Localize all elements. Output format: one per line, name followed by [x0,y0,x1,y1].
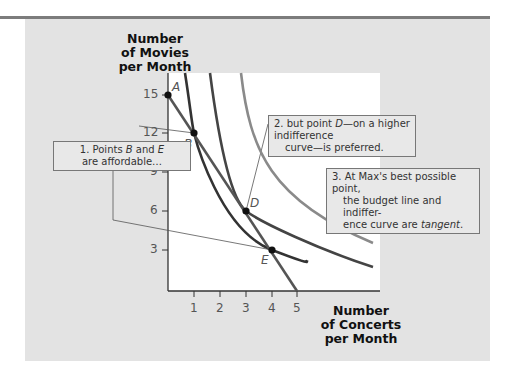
callout-text: 3. At Max's best possible point, [332,171,474,195]
point-e [268,246,275,253]
x-ticks [194,291,297,297]
y-axis-title: Number of Movies per Month [95,32,215,74]
callout-tangent: 3. At Max's best possible point, the bud… [326,168,480,234]
y-tick-label: 3 [150,242,158,256]
x-axis-title: Number of Concerts per Month [306,304,416,346]
y-title-line: per Month [95,60,215,74]
callout-text: are affordable… [59,156,185,168]
x-title-line: of Concerts [306,318,416,332]
x-tick-label: 1 [190,301,198,315]
y-tick-label: 12 [143,125,158,139]
x-title-line: Number [306,304,416,318]
y-ticks [162,95,168,250]
callout-text: the budget line and indiffer- [332,195,474,219]
x-tick-label: 3 [242,301,250,315]
x-tick-label: 5 [293,301,301,315]
point-b [190,129,197,136]
callout-affordable: 1. Points B and E are affordable… [53,141,191,171]
x-title-line: per Month [306,332,416,346]
point-d [242,207,249,214]
y-tick-label: 15 [143,87,158,101]
point-label-e: E [261,253,269,267]
callout-preferred: 2. but point D—on a higher indifference … [268,115,416,157]
y-title-line: Number [95,32,215,46]
point-a [164,91,171,98]
point-label-a: A [172,80,180,94]
point-label-d: D [250,196,259,210]
x-tick-label: 4 [268,301,276,315]
y-tick-label: 6 [150,203,158,217]
callout-text: curve—is preferred. [274,142,410,154]
x-tick-label: 2 [216,301,224,315]
y-title-line: of Movies [95,46,215,60]
